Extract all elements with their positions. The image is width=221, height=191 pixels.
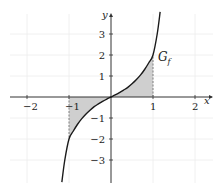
curve-label: Gf [158, 50, 173, 66]
x-tick-label: −2 [23, 101, 38, 112]
x-tick-label: 1 [150, 101, 156, 112]
y-axis-arrow-icon [109, 13, 113, 17]
curve-label-main: G [158, 50, 168, 64]
x-axis-label: x [204, 95, 210, 106]
axes [10, 13, 213, 183]
y-tick-label: 2 [99, 50, 105, 61]
x-tick-label: −1 [65, 101, 80, 112]
y-tick-label: 3 [99, 29, 105, 40]
y-tick-label: −2 [90, 134, 105, 145]
y-tick-label: −3 [90, 155, 105, 166]
curve-label-sub: f [167, 57, 173, 66]
y-tick-label: −1 [90, 113, 105, 124]
y-tick-label: 1 [99, 71, 105, 82]
x-tick-label: 2 [192, 101, 198, 112]
y-axis-label: y [101, 9, 108, 20]
function-plot: −2−112321−1−2−3 x y Gf [0, 0, 221, 191]
